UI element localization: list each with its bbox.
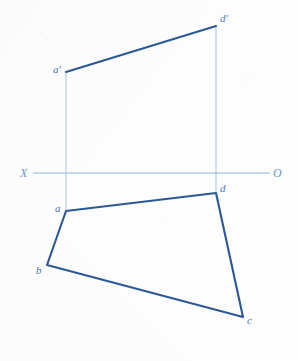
vertex-label-d-prime: d′ bbox=[220, 13, 228, 24]
vertex-label-a-prime: a′ bbox=[53, 64, 61, 75]
vertex-label-a: a bbox=[55, 203, 61, 214]
axis-label-x: X bbox=[20, 167, 27, 179]
front-view-group bbox=[66, 26, 216, 72]
projection-figure bbox=[0, 0, 298, 361]
axis-label-o: O bbox=[273, 167, 282, 179]
top-view-group bbox=[47, 193, 243, 317]
vertex-label-d: d bbox=[220, 183, 226, 194]
projection-lines-group bbox=[66, 26, 216, 211]
edge-a-prime-d-prime bbox=[66, 26, 216, 72]
vertex-label-c: c bbox=[247, 315, 252, 326]
top-view-quadrilateral bbox=[47, 193, 243, 317]
drawing-sheet: X O a′ d′ a d c b bbox=[0, 0, 298, 361]
vertex-label-b: b bbox=[36, 265, 42, 276]
